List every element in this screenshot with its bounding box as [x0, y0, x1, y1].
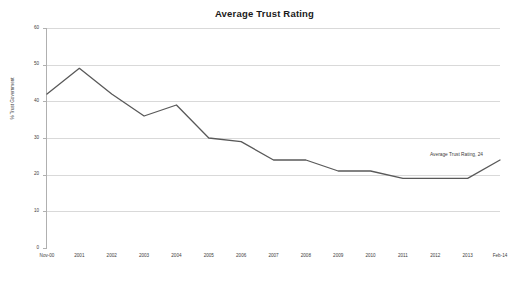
- y-axis-tick-mark: [43, 65, 46, 66]
- y-axis-tick-mark: [43, 138, 46, 139]
- y-axis-tick-label: 50: [0, 62, 39, 67]
- y-axis-tick-mark: [43, 175, 46, 176]
- data-point-annotation: Average Trust Rating, 24: [430, 152, 483, 157]
- y-axis-tick-label: 60: [0, 26, 39, 31]
- y-axis-tick-label: 0: [0, 246, 39, 251]
- series-line-average-trust-rating: [47, 28, 500, 248]
- y-axis-tick-mark: [43, 28, 46, 29]
- plot-area: [47, 28, 500, 248]
- y-axis-tick-label: 40: [0, 99, 39, 104]
- y-axis-tick-mark: [43, 101, 46, 102]
- y-axis-tick-label: 20: [0, 172, 39, 177]
- y-axis-tick-label: 10: [0, 209, 39, 214]
- y-axis-tick-label: 30: [0, 136, 39, 141]
- y-axis-tick-mark: [43, 248, 46, 249]
- x-axis-tick-label: Feb-14: [478, 254, 522, 259]
- chart-container: Average Trust Rating % Trust Government …: [0, 0, 529, 287]
- chart-title: Average Trust Rating: [0, 8, 529, 19]
- y-axis-tick-mark: [43, 211, 46, 212]
